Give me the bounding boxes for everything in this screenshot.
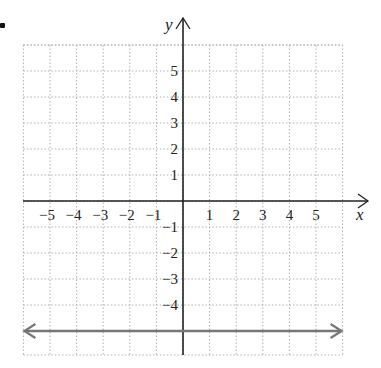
x-tick-label: 5: [312, 207, 320, 223]
coordinate-plane: xy−5−4−3−2−11234554321−1−2−3−4: [0, 0, 381, 368]
x-tick-label: −1: [145, 207, 161, 223]
x-tick-label: 2: [232, 207, 240, 223]
y-tick-label: −2: [162, 245, 178, 261]
x-tick-label: −5: [39, 207, 55, 223]
y-tick-label: 5: [171, 63, 179, 79]
x-tick-label: 4: [286, 207, 294, 223]
x-axis-label: x: [355, 205, 364, 224]
y-tick-label: 1: [171, 167, 179, 183]
x-tick-label: −3: [92, 207, 108, 223]
y-tick-label: −4: [162, 297, 178, 313]
y-tick-label: −3: [162, 271, 178, 287]
x-tick-label: −4: [66, 207, 82, 223]
x-tick-label: −2: [119, 207, 135, 223]
y-tick-label: 2: [171, 141, 179, 157]
y-axis-label: y: [163, 15, 173, 34]
y-tick-label: 4: [171, 89, 179, 105]
x-tick-label: 3: [259, 207, 267, 223]
y-tick-label: 3: [171, 115, 179, 131]
y-tick-label: −1: [162, 219, 178, 235]
x-tick-label: 1: [206, 207, 214, 223]
